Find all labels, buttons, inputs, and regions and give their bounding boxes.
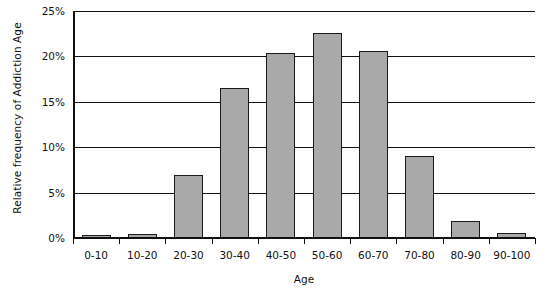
bar [405,156,434,238]
y-axis-tick-label: 10% [23,141,65,153]
x-axis-ticks [73,238,535,245]
y-axis-tick-label: 20% [23,50,65,62]
x-axis-tick-label: 50-60 [312,249,343,261]
x-axis-tick [119,238,120,244]
x-axis-tick-label: 40-50 [266,249,297,261]
y-axis-tick-label: 25% [23,5,65,17]
x-axis-tick [350,238,351,244]
y-axis-tick-label: 0% [23,232,65,244]
plot-area: 0%5%10%15%20%25% [73,11,535,238]
bar-slot [73,11,119,238]
x-axis-tick [73,238,74,244]
bar [313,33,342,238]
x-axis-tick [443,238,444,244]
bar-slot [443,11,489,238]
bar-slot [119,11,165,238]
bar-slot [165,11,211,238]
bar [220,88,249,238]
x-axis-tick-label: 90-100 [493,249,530,261]
x-axis-tick-label: 80-90 [450,249,481,261]
histogram-chart: Relative frequency of Addiction Age 0%5%… [0,0,549,299]
x-axis-tick-label: 70-80 [404,249,435,261]
bar [451,221,480,238]
y-axis-tick-label: 15% [23,96,65,108]
bar [174,175,203,238]
bar [266,53,295,238]
bar-slot [212,11,258,238]
bar-slot [489,11,535,238]
x-axis-tick [304,238,305,244]
x-axis-tick-label: 20-30 [173,249,204,261]
x-axis-tick [165,238,166,244]
bar-slot [350,11,396,238]
x-axis-tick-label: 10-20 [127,249,158,261]
x-axis-tick-label: 0-10 [84,249,108,261]
bar [359,51,388,238]
x-axis-tick-label: 60-70 [358,249,389,261]
y-axis-title: Relative frequency of Addiction Age [11,8,23,228]
x-axis-tick [535,238,536,244]
bars-group [73,11,535,238]
x-axis-tick [212,238,213,244]
y-axis-tick-label: 5% [23,187,65,199]
bar-slot [258,11,304,238]
x-axis-tick-label: 30-40 [219,249,250,261]
x-axis-tick [489,238,490,244]
x-axis-tick [396,238,397,244]
x-axis-tick-labels: 0-1010-2020-3030-4040-5050-6060-7070-808… [73,249,535,267]
x-axis-tick [258,238,259,244]
x-axis-title: Age [73,273,535,285]
bar-slot [304,11,350,238]
bar-slot [396,11,442,238]
